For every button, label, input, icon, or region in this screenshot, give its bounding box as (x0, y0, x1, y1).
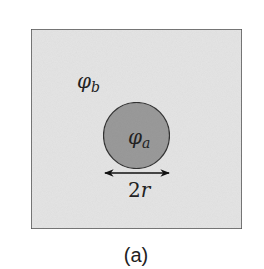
figure-diagram: φb φa 2r (a) (0, 0, 264, 269)
figure-caption: (a) (124, 244, 148, 266)
diameter-label: 2r (128, 178, 152, 202)
